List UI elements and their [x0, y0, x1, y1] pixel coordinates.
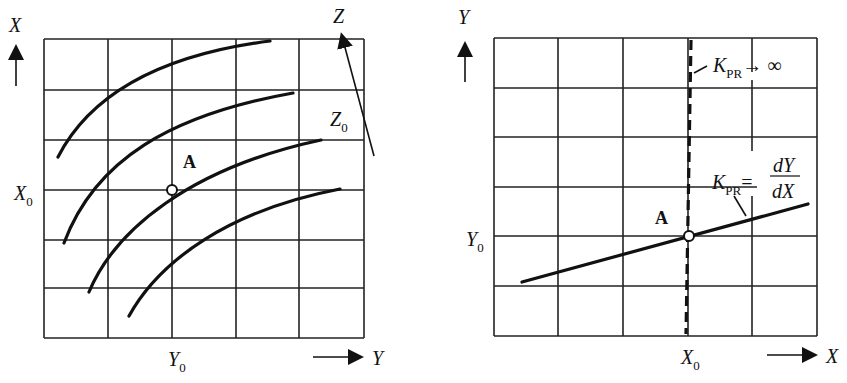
- k-slope-denominator: dX: [772, 180, 795, 202]
- x-axis-label: X: [8, 14, 22, 36]
- curve-z0: [89, 140, 321, 292]
- point-a-label: A: [183, 152, 196, 172]
- right-grid: [494, 38, 817, 336]
- k-slope-label: KPR=: [711, 171, 753, 198]
- x-axis-label-right: X: [825, 345, 839, 367]
- left-panel: A Z Z0 X X0 Y0 Y: [8, 5, 385, 375]
- y0-label-right: Y0: [466, 228, 484, 255]
- x0-label-right: X0: [680, 346, 700, 373]
- y-axis-label: Y: [372, 347, 385, 369]
- k-slope-numerator: dY: [773, 154, 796, 176]
- right-panel: A KPR→ ∞ KPR= dY dX Y Y0 X0 X: [458, 6, 839, 373]
- z-arrow: [343, 40, 374, 156]
- y-axis-label-right: Y: [458, 6, 471, 28]
- k-inf-leader: [694, 66, 707, 73]
- x0-label: X0: [13, 182, 33, 209]
- k-slope-leader: [734, 196, 746, 216]
- z-label: Z: [333, 5, 345, 27]
- y0-label: Y0: [168, 348, 186, 375]
- z0-label: Z0: [330, 108, 348, 135]
- k-infinity-label: KPR→ ∞: [712, 54, 782, 81]
- curve-2: [64, 93, 293, 243]
- point-a-right: [684, 231, 694, 241]
- point-a: [167, 185, 177, 195]
- point-a-right-label: A: [655, 208, 668, 228]
- left-grid: [44, 39, 364, 338]
